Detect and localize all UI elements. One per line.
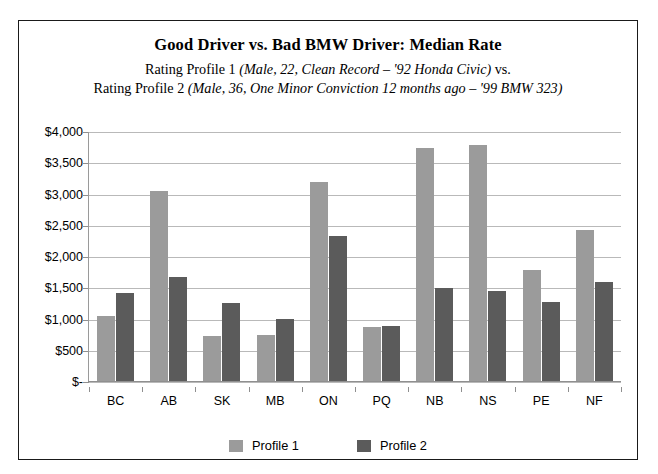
bar-pe-profile-2 xyxy=(542,302,560,382)
y-tick-mark xyxy=(83,382,89,383)
x-tick-label-ns: NS xyxy=(479,394,496,408)
bar-mb-profile-1 xyxy=(257,335,275,382)
bar-nf-profile-1 xyxy=(576,230,594,383)
x-tick-mark xyxy=(249,387,250,392)
y-tick-label: $- xyxy=(72,375,83,389)
x-tick-label-nf: NF xyxy=(586,394,603,408)
x-tick-mark xyxy=(355,387,356,392)
x-tick-mark xyxy=(142,387,143,392)
subtitle-1-suffix: vs. xyxy=(491,61,511,77)
y-axis-labels: $-$500$1,000$1,500$2,000$2,500$3,000$3,5… xyxy=(19,132,83,382)
bar-group-ab xyxy=(142,132,195,382)
bar-pe-profile-1 xyxy=(523,270,541,382)
bar-bc-profile-1 xyxy=(97,316,115,382)
bar-group-mb xyxy=(249,132,302,382)
chart-legend: Profile 1Profile 2 xyxy=(19,438,637,453)
x-tick-mark xyxy=(89,387,90,392)
x-axis-line xyxy=(88,381,621,382)
x-axis-labels: BCABSKMBONPQNBNSPENF xyxy=(89,387,621,407)
bar-ns-profile-2 xyxy=(488,291,506,382)
bar-mb-profile-2 xyxy=(276,319,294,382)
gridline xyxy=(89,382,621,383)
bar-on-profile-2 xyxy=(329,236,347,382)
y-tick-label: $3,000 xyxy=(45,188,83,202)
y-tick-label: $4,000 xyxy=(45,125,83,139)
bar-ab-profile-2 xyxy=(169,277,187,382)
y-tick-label: $1,500 xyxy=(45,281,83,295)
bar-sk-profile-1 xyxy=(203,336,221,382)
bar-group-nb xyxy=(408,132,461,382)
bar-group-pe xyxy=(515,132,568,382)
bar-ab-profile-1 xyxy=(150,191,168,382)
bar-group-on xyxy=(302,132,355,382)
y-axis-line xyxy=(88,132,89,382)
bar-on-profile-1 xyxy=(310,182,328,382)
subtitle-1-prefix: Rating Profile 1 xyxy=(145,61,239,77)
bar-bc-profile-2 xyxy=(116,293,134,382)
bar-sk-profile-2 xyxy=(222,303,240,382)
bar-group-bc xyxy=(89,132,142,382)
x-tick-mark xyxy=(621,387,622,392)
subtitle-2-profile-detail: (Male, 36, One Minor Conviction 12 month… xyxy=(188,80,563,96)
y-tick-label: $3,500 xyxy=(45,156,83,170)
chart-title: Good Driver vs. Bad BMW Driver: Median R… xyxy=(19,35,637,55)
bar-ns-profile-1 xyxy=(469,145,487,382)
subtitle-2-prefix: Rating Profile 2 xyxy=(94,80,188,96)
x-tick-label-nb: NB xyxy=(426,394,443,408)
x-tick-mark xyxy=(515,387,516,392)
chart-frame: Good Driver vs. Bad BMW Driver: Median R… xyxy=(18,20,638,460)
chart-subtitle-line-1: Rating Profile 1 (Male, 22, Clean Record… xyxy=(19,60,637,79)
x-tick-label-pe: PE xyxy=(533,394,550,408)
x-tick-label-ab: AB xyxy=(160,394,177,408)
y-tick-label: $2,000 xyxy=(45,250,83,264)
x-tick-label-sk: SK xyxy=(214,394,231,408)
legend-label: Profile 1 xyxy=(252,438,299,453)
bar-pq-profile-2 xyxy=(382,326,400,382)
legend-item-profile-1[interactable]: Profile 1 xyxy=(229,438,299,453)
bar-group-nf xyxy=(568,132,621,382)
bar-group-sk xyxy=(195,132,248,382)
x-tick-label-on: ON xyxy=(319,394,338,408)
y-tick-label: $2,500 xyxy=(45,219,83,233)
legend-label: Profile 2 xyxy=(380,438,427,453)
bar-group-pq xyxy=(355,132,408,382)
bar-nf-profile-2 xyxy=(595,282,613,382)
y-tick-label: $500 xyxy=(55,344,83,358)
x-tick-mark xyxy=(568,387,569,392)
x-tick-label-bc: BC xyxy=(107,394,124,408)
x-tick-mark xyxy=(302,387,303,392)
x-tick-mark xyxy=(461,387,462,392)
bar-pq-profile-1 xyxy=(363,327,381,382)
plot-area xyxy=(89,132,621,382)
x-tick-mark xyxy=(408,387,409,392)
bar-nb-profile-2 xyxy=(435,288,453,382)
legend-swatch-icon xyxy=(357,440,371,452)
bar-group-ns xyxy=(461,132,514,382)
x-tick-label-pq: PQ xyxy=(373,394,391,408)
legend-item-profile-2[interactable]: Profile 2 xyxy=(357,438,427,453)
bar-nb-profile-1 xyxy=(416,148,434,382)
title-block: Good Driver vs. Bad BMW Driver: Median R… xyxy=(19,35,637,98)
legend-swatch-icon xyxy=(229,440,243,452)
y-tick-label: $1,000 xyxy=(45,313,83,327)
chart-subtitle-line-2: Rating Profile 2 (Male, 36, One Minor Co… xyxy=(19,79,637,98)
x-tick-label-mb: MB xyxy=(266,394,285,408)
subtitle-1-profile-detail: (Male, 22, Clean Record – '92 Honda Civi… xyxy=(239,61,491,77)
x-tick-mark xyxy=(195,387,196,392)
